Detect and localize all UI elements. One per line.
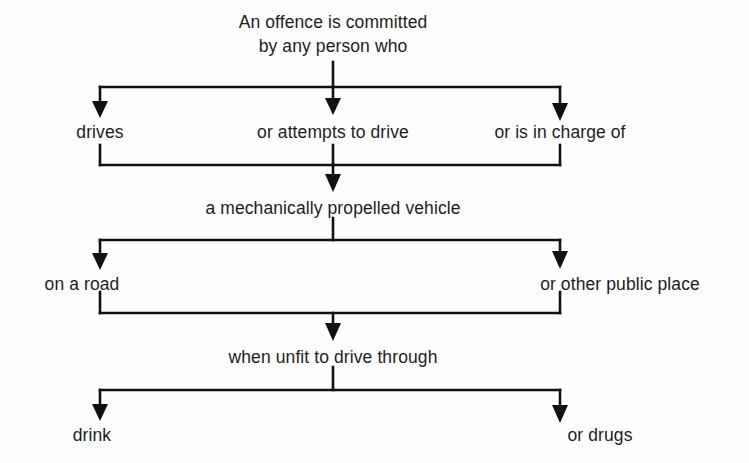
node-or-other-public-place: or other public place (540, 272, 700, 296)
node-when-unfit-to-drive-through: when unfit to drive through (229, 345, 438, 369)
node-or-is-in-charge-of: or is in charge of (494, 120, 625, 144)
flowchart-connectors (0, 0, 749, 463)
arrowhead-split1-right (552, 103, 568, 121)
arrowhead-merge1 (325, 174, 341, 192)
node-root: An offence is committed by any person wh… (239, 10, 428, 58)
arrowhead-split3-left (92, 404, 108, 421)
node-root-line1: An offence is committed (239, 10, 428, 34)
arrowhead-split3-right (552, 405, 568, 423)
node-or-drugs: or drugs (568, 423, 633, 447)
arrowhead-split2-left (92, 253, 108, 270)
node-drives: drives (76, 120, 123, 144)
arrowhead-split1-left (92, 101, 108, 118)
arrowhead-split1-center (325, 98, 341, 115)
flowchart-diagram: An offence is committed by any person wh… (0, 0, 749, 463)
arrowhead-merge2 (325, 323, 341, 341)
arrowhead-split2-right (552, 251, 568, 269)
node-mechanically-propelled-vehicle: a mechanically propelled vehicle (205, 196, 460, 220)
node-on-a-road: on a road (45, 272, 120, 296)
node-or-attempts-to-drive: or attempts to drive (257, 120, 409, 144)
node-drink: drink (73, 423, 111, 447)
node-root-line2: by any person who (239, 34, 428, 58)
